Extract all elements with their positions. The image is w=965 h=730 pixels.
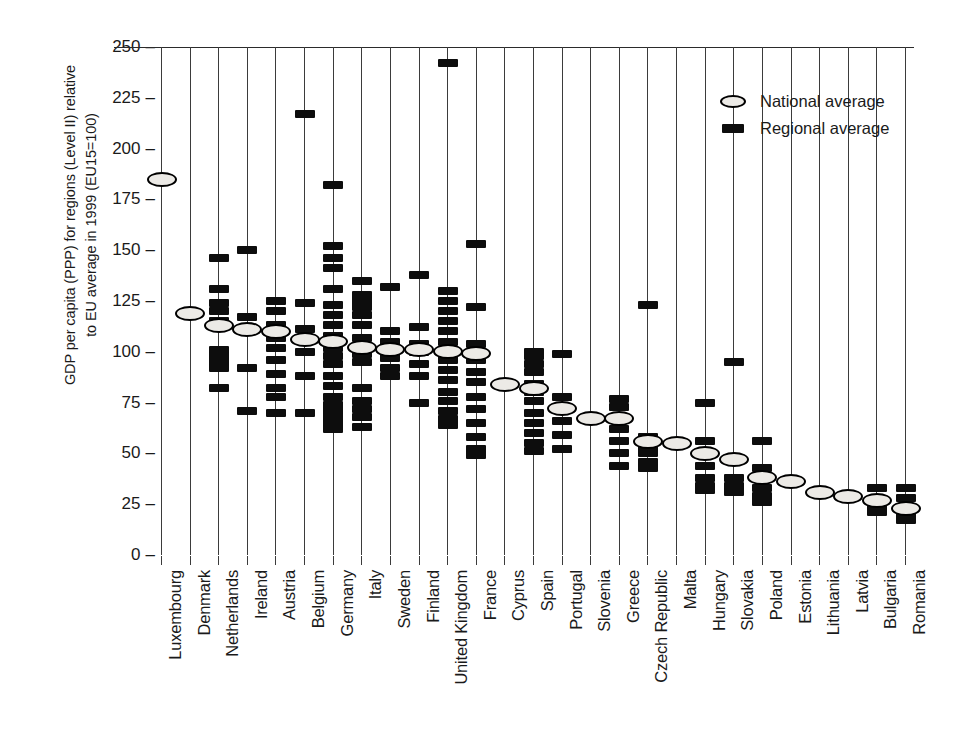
x-tick-mark (275, 556, 276, 565)
national-average-marker (175, 306, 205, 321)
regional-average-marker (209, 307, 229, 315)
national-average-marker (519, 381, 549, 396)
regional-average-marker (323, 382, 343, 390)
x-tick-mark (905, 556, 906, 565)
x-label-bulgaria: Bulgaria (882, 570, 899, 629)
x-label-portugal: Portugal (568, 570, 585, 630)
x-label-finland: Finland (425, 570, 442, 623)
gridline-luxembourg (161, 47, 162, 555)
legend-item-regional: Regional average (712, 115, 942, 142)
regional-average-marker (438, 297, 458, 305)
regional-average-marker (237, 246, 257, 254)
x-label-cyprus: Cyprus (510, 570, 527, 621)
regional-average-marker (638, 464, 658, 472)
regional-average-marker (352, 311, 372, 319)
x-tick-mark (647, 556, 648, 565)
regional-average-marker (695, 462, 715, 470)
x-label-slovakia: Slovakia (739, 570, 756, 631)
national-average-marker (719, 452, 749, 467)
x-tick-mark (390, 556, 391, 565)
x-tick-mark (590, 556, 591, 565)
x-tick-mark (676, 556, 677, 565)
national-average-marker (461, 346, 491, 361)
x-label-denmark: Denmark (196, 570, 213, 636)
regional-average-marker (695, 486, 715, 494)
regional-average-marker (466, 240, 486, 248)
regional-average-marker (352, 423, 372, 431)
regional-average-marker (552, 417, 572, 425)
regional-average-marker (352, 321, 372, 329)
regional-average-marker (609, 449, 629, 457)
x-label-italy: Italy (367, 570, 384, 599)
regional-average-marker (323, 352, 343, 360)
regional-average-marker (295, 110, 315, 118)
x-label-estonia: Estonia (797, 570, 814, 624)
regional-average-marker (380, 327, 400, 335)
regional-average-marker (609, 395, 629, 403)
x-tick-mark (304, 556, 305, 565)
regional-average-marker (609, 437, 629, 445)
x-label-latvia: Latvia (854, 570, 871, 613)
y-tick-150: 150– (0, 241, 155, 258)
regional-average-marker (323, 264, 343, 272)
x-tick-mark (419, 556, 420, 565)
regional-average-marker (695, 437, 715, 445)
national-average-marker (375, 342, 405, 357)
regional-average-marker (266, 297, 286, 305)
regional-average-marker (295, 372, 315, 380)
regional-average-marker (323, 254, 343, 262)
gridline-france (476, 47, 477, 555)
regional-average-marker (695, 474, 715, 482)
x-label-spain: Spain (539, 570, 556, 611)
y-tick-0: 0– (0, 546, 155, 563)
regional-average-marker (867, 484, 887, 492)
y-tick-25: 25– (0, 495, 155, 512)
chart-figure: GDP per capita (PPP) for regions (Level … (0, 0, 965, 730)
x-label-slovenia: Slovenia (596, 570, 613, 632)
regional-average-marker (323, 425, 343, 433)
regional-average-marker (524, 439, 544, 447)
national-average-marker (690, 446, 720, 461)
national-average-marker (662, 436, 692, 451)
regional-average-marker (352, 358, 372, 366)
regional-average-marker (609, 403, 629, 411)
regional-average-marker (552, 445, 572, 453)
regional-average-marker (896, 516, 916, 524)
gridline-greece (619, 47, 620, 555)
regional-average-marker (295, 409, 315, 417)
regional-average-marker (295, 348, 315, 356)
regional-average-marker (524, 429, 544, 437)
national-average-marker (547, 401, 577, 416)
x-tick-mark (733, 556, 734, 565)
regional-average-marker (638, 301, 658, 309)
regional-average-marker (438, 317, 458, 325)
x-label-lithuania: Lithuania (825, 570, 842, 635)
x-tick-mark (333, 556, 334, 565)
regional-average-marker (323, 372, 343, 380)
national-average-marker (776, 474, 806, 489)
national-average-marker (576, 411, 606, 426)
regional-average-marker (209, 299, 229, 307)
y-tick-50: 50– (0, 444, 155, 461)
regional-average-marker (724, 474, 744, 482)
x-tick-mark (848, 556, 849, 565)
x-tick-mark (476, 556, 477, 565)
regional-average-marker (352, 397, 372, 405)
regional-average-marker (466, 433, 486, 441)
y-tick-200: 200– (0, 140, 155, 157)
x-label-united-kingdom: United Kingdom (453, 570, 470, 685)
x-tick-mark (562, 556, 563, 565)
x-label-belgium: Belgium (310, 570, 327, 628)
x-tick-mark (876, 556, 877, 565)
y-tick-100: 100– (0, 343, 155, 360)
national-average-marker (261, 324, 291, 339)
x-tick-mark (504, 556, 505, 565)
regional-average-marker (438, 366, 458, 374)
regional-average-marker (438, 59, 458, 67)
x-tick-mark (619, 556, 620, 565)
regional-average-marker (724, 358, 744, 366)
regional-average-marker (266, 356, 286, 364)
regional-average-marker (524, 360, 544, 368)
regional-average-marker (524, 409, 544, 417)
x-label-czech-republic: Czech Republic (653, 570, 670, 683)
